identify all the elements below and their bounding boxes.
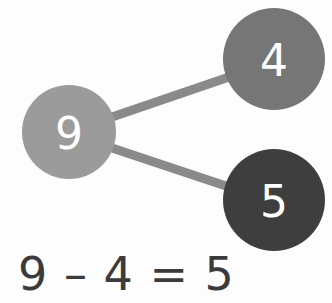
number-bond-figure: 9 4 5 9 – 4 = 5: [0, 0, 332, 303]
node-whole[interactable]: 9: [22, 85, 116, 179]
node-whole-label: 9: [55, 108, 83, 159]
connector-whole-to-part-two: [112, 148, 232, 188]
node-part-one[interactable]: 4: [223, 8, 325, 110]
node-part-two[interactable]: 5: [223, 149, 325, 251]
node-part-one-label: 4: [260, 35, 288, 86]
connector-whole-to-part-one: [112, 76, 232, 117]
equation-text: 9 – 4 = 5: [18, 247, 318, 301]
node-part-two-label: 5: [260, 176, 288, 227]
number-bond-diagram: 9 4 5: [0, 0, 332, 260]
